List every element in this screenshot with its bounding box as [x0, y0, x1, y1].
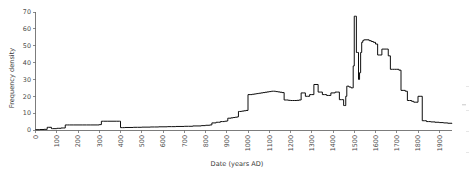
x-tick-label: 300 [96, 135, 104, 147]
right-edge-artifact [462, 86, 469, 153]
x-tick-label: 200 [74, 135, 82, 147]
x-tick-label: 700 [181, 135, 189, 147]
frequency-density-line-chart: 010203040506070 010020030040050060070080… [0, 0, 469, 174]
x-tick-label: 1900 [436, 135, 444, 151]
y-axis-title: Frequency density [8, 48, 16, 108]
y-axis-ticks: 010203040506070 [23, 8, 36, 134]
y-tick-label: 0 [27, 126, 31, 134]
x-tick-label: 1400 [329, 135, 337, 151]
chart-container: 010203040506070 010020030040050060070080… [0, 0, 469, 174]
y-tick-label: 10 [23, 109, 31, 117]
x-tick-label: 0 [32, 135, 40, 139]
x-tick-label: 900 [223, 135, 231, 147]
y-tick-label: 60 [23, 25, 31, 33]
x-tick-label: 600 [159, 135, 167, 147]
x-tick-label: 1700 [393, 135, 401, 151]
x-tick-label: 800 [202, 135, 210, 147]
y-tick-label: 20 [23, 93, 31, 101]
y-tick-label: 70 [23, 8, 31, 16]
y-tick-label: 30 [23, 76, 31, 84]
x-tick-label: 1200 [287, 135, 295, 151]
data-series-line [36, 16, 453, 129]
x-tick-label: 1300 [308, 135, 316, 151]
x-tick-label: 400 [117, 135, 125, 147]
y-tick-label: 40 [23, 59, 31, 67]
y-tick-label: 50 [23, 42, 31, 50]
x-tick-label: 1000 [244, 135, 252, 151]
x-tick-label: 1100 [266, 135, 274, 151]
x-tick-label: 1500 [351, 135, 359, 151]
x-axis-ticks: 0100200300400500600700800900100011001200… [32, 130, 444, 151]
x-tick-label: 500 [138, 135, 146, 147]
x-tick-label: 1800 [414, 135, 422, 151]
x-axis-title: Date (years AD) [211, 160, 264, 168]
x-tick-label: 100 [53, 135, 61, 147]
x-tick-label: 1600 [372, 135, 380, 151]
